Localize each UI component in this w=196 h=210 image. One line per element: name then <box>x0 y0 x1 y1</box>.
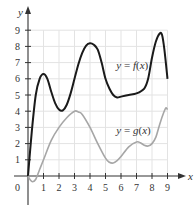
function-graph: 1234567891234567890xy y = f(x)y = g(x) <box>0 0 196 210</box>
x-tick-label: 6 <box>119 182 124 193</box>
y-tick-label: 5 <box>15 90 20 101</box>
y-tick-label: 1 <box>15 154 20 165</box>
x-tick-label: 2 <box>57 182 62 193</box>
origin-label: 0 <box>15 182 20 193</box>
y-tick-label: 6 <box>15 73 20 84</box>
x-tick-label: 5 <box>103 182 108 193</box>
axes <box>14 6 186 205</box>
x-tick-label: 8 <box>150 182 155 193</box>
g-curve <box>28 108 168 182</box>
x-tick-label: 4 <box>88 182 93 193</box>
x-axis-arrow-icon <box>178 173 186 179</box>
y-tick-label: 4 <box>15 106 20 117</box>
x-tick-label: 1 <box>41 182 46 193</box>
y-tick-label: 8 <box>15 41 20 52</box>
y-tick-label: 7 <box>15 57 20 68</box>
f-curve-label: y = f(x) <box>115 59 148 72</box>
y-tick-label: 3 <box>15 122 20 133</box>
y-tick-label: 9 <box>15 25 20 36</box>
x-axis-label: x <box>187 170 193 182</box>
y-tick-label: 2 <box>15 138 20 149</box>
x-tick-label: 7 <box>134 182 139 193</box>
f-curve <box>28 33 168 176</box>
y-axis-label: y <box>17 6 23 18</box>
x-tick-label: 9 <box>165 182 170 193</box>
y-axis-arrow-icon <box>25 6 31 14</box>
g-curve-label: y = g(x) <box>115 124 151 137</box>
x-tick-label: 3 <box>72 182 77 193</box>
